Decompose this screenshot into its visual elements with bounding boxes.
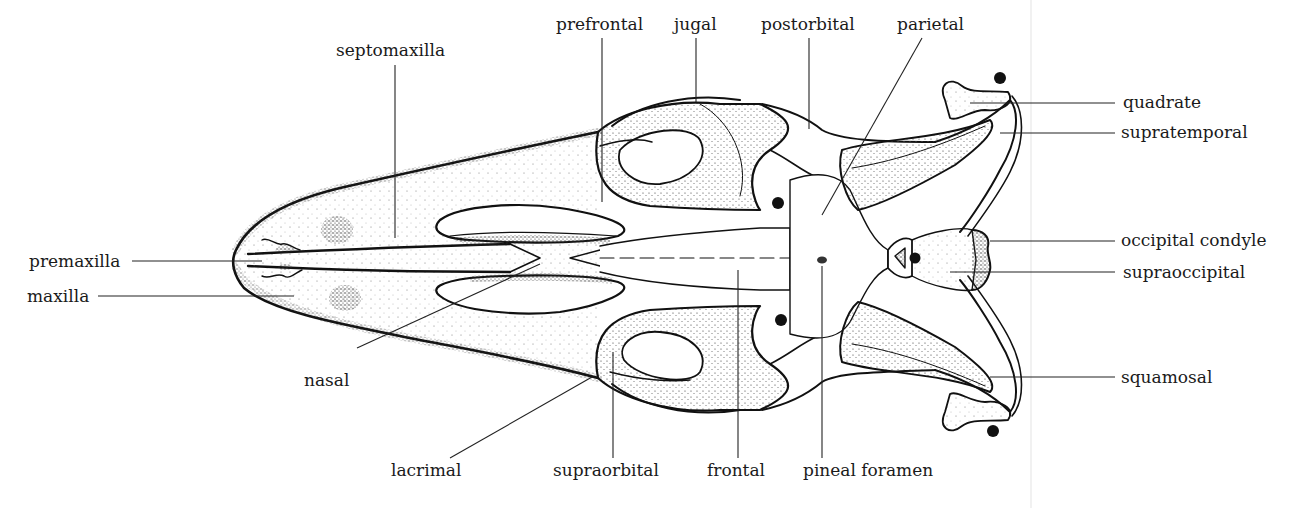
septomaxilla-patch-upper (321, 216, 353, 244)
label-squamosal: squamosal (1121, 367, 1212, 387)
marker-dot (994, 72, 1006, 84)
label-frontal: frontal (707, 460, 765, 480)
skull-outline (233, 82, 1021, 431)
label-supraoccipital: supraoccipital (1123, 262, 1245, 282)
label-quadrate: quadrate (1123, 92, 1201, 112)
label-postorbital: postorbital (761, 14, 855, 34)
temporal-fenestra-lower (840, 302, 992, 392)
supraoccipital-bone (912, 229, 976, 291)
label-maxilla: maxilla (27, 286, 89, 306)
marker-dot (775, 314, 787, 326)
label-premaxilla: premaxilla (29, 251, 120, 271)
frontal-bone (600, 228, 790, 290)
label-pineal-foramen: pineal foramen (803, 460, 933, 480)
label-prefrontal: prefrontal (556, 14, 643, 34)
marker-dot (910, 253, 921, 264)
label-jugal: jugal (674, 14, 717, 34)
quadrate-lower (943, 393, 1010, 430)
occipital-condyle (972, 230, 990, 290)
skull-diagram (0, 0, 1312, 508)
pineal-foramen-mark (817, 257, 827, 264)
leader-lacrimal (450, 377, 592, 458)
marker-dot (772, 197, 784, 209)
label-parietal: parietal (897, 14, 964, 34)
label-occipital-condyle: occipital condyle (1121, 230, 1267, 250)
label-septomaxilla: septomaxilla (336, 40, 445, 60)
label-supratemporal: supratemporal (1121, 122, 1248, 142)
label-nasal: nasal (304, 370, 349, 390)
septomaxilla-patch-lower (329, 285, 361, 311)
temporal-fenestra-upper (840, 120, 992, 210)
marker-dot (987, 425, 999, 437)
quadrate-upper (943, 82, 1010, 119)
label-supraorbital: supraorbital (553, 460, 659, 480)
label-lacrimal: lacrimal (391, 460, 461, 480)
